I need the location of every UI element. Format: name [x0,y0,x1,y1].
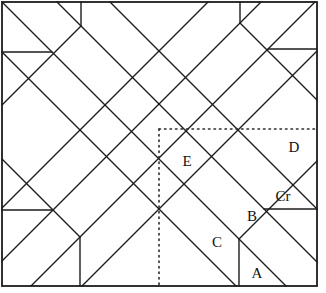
block-border [2,2,317,286]
diag-tlbr-offset-1 [57,2,317,262]
piece-label-Cr: Cr [276,188,291,204]
diag-trbl-offset-low [82,51,317,286]
diag-tlbr-offset-low [2,52,236,286]
diag-corner-bl [2,159,80,237]
diag-corner-tl [2,26,81,105]
piece-label-A: A [252,265,263,281]
piece-label-B: B [247,208,257,224]
diag-tlbr-offset-2 [110,2,317,209]
piece-label-E: E [182,153,191,169]
piece-label-D: D [289,139,300,155]
diag-main-tlbr [2,2,286,286]
quilt-block-diagram: EDCrBCA [0,0,326,293]
diag-main-trbl [31,2,315,286]
quilt-diagram-page: EDCrBCA [0,0,326,293]
diag-corner-tr [240,23,317,100]
piece-label-C: C [212,234,222,250]
